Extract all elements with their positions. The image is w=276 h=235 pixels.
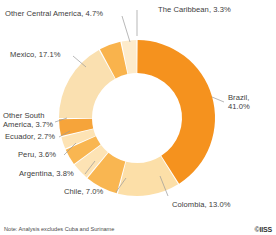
slice-label-other-south-america-line1: Other South (3, 111, 45, 120)
copyright-credit: ©IISS (255, 226, 272, 233)
leader-line-other-central-america (122, 16, 130, 42)
slice-label-caribbean: The Caribbean, 3.3% (158, 5, 231, 14)
slice-label-colombia: Colombia, 13.0% (172, 200, 231, 209)
slice-label-other-south-america-line2: America, 3.7% (3, 120, 53, 129)
slice-label-ecuador: Ecuador, 2.7% (5, 132, 55, 141)
slice-label-mexico: Mexico, 17.1% (10, 50, 60, 59)
slice-label-other-south-america: Other South America, 3.7% (3, 111, 59, 129)
slice-label-brazil: Brazil, 41.0% (228, 93, 272, 111)
chart-note: Note: Analysis excludes Cuba and Surinam… (4, 226, 114, 233)
donut-slice-group (59, 40, 215, 196)
slice-label-other-central-america: Other Central America, 4.7% (5, 9, 103, 18)
donut-chart-figure: The Caribbean, 3.3% Other Central Americ… (0, 0, 276, 235)
slice-label-chile: Chile, 7.0% (64, 187, 103, 196)
slice-label-peru: Peru, 3.6% (18, 150, 56, 159)
leader-line-brazil (212, 97, 224, 102)
slice-label-brazil-line1: Brazil, (228, 93, 249, 102)
slice-label-brazil-line2: 41.0% (228, 102, 250, 111)
slice-label-argentina: Argentina, 3.8% (19, 169, 74, 178)
